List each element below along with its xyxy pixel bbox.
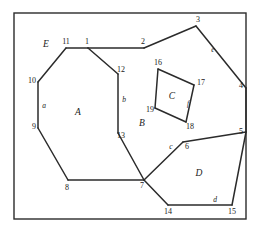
vertex-label-15: 15 (228, 208, 236, 216)
vertex-label-11: 11 (62, 38, 70, 46)
vertex-label-2: 2 (141, 38, 145, 46)
edge-label-d: d (213, 196, 217, 204)
vertex-label-10: 10 (28, 77, 36, 85)
edge-5-6 (183, 132, 246, 142)
edge-2-3 (144, 26, 196, 48)
vertex-label-3: 3 (196, 16, 200, 24)
edge-label-b: b (122, 96, 126, 104)
face-label-C: C (169, 92, 175, 102)
edge-8-9 (38, 128, 68, 180)
planar-subdivision-figure: 12345678910111213141516171819 abcdef ABC… (0, 0, 264, 233)
face-label-A: A (75, 108, 81, 118)
vertex-label-19: 19 (146, 106, 154, 114)
edge-16-17 (158, 69, 194, 85)
vertex-label-5: 5 (239, 128, 243, 136)
edge-label-f: f (187, 100, 189, 108)
edge-13-7 (118, 133, 144, 180)
face-label-D: D (196, 169, 203, 179)
vertex-label-1: 1 (85, 38, 89, 46)
edge-18-19 (155, 108, 186, 122)
vertex-label-13: 13 (117, 132, 125, 140)
vertex-label-9: 9 (32, 123, 36, 131)
edge-collection (38, 26, 246, 205)
figure-canvas (0, 0, 264, 233)
edge-label-a: a (42, 102, 46, 110)
vertex-label-7: 7 (140, 182, 144, 190)
edge-7-14 (144, 180, 168, 205)
vertex-label-18: 18 (186, 123, 194, 131)
edge-label-c: c (169, 143, 172, 151)
vertex-label-8: 8 (65, 184, 69, 192)
vertex-label-4: 4 (239, 82, 243, 90)
face-label-E: E (43, 40, 49, 50)
vertex-label-14: 14 (164, 208, 172, 216)
vertex-label-6: 6 (185, 143, 189, 151)
edge-1-12 (88, 48, 118, 74)
edge-6-7 (144, 142, 183, 180)
vertex-label-16: 16 (154, 59, 162, 67)
edge-label-e: e (211, 46, 214, 54)
vertex-label-12: 12 (117, 66, 125, 74)
edge-15-5 (232, 132, 246, 205)
vertex-label-17: 17 (197, 79, 205, 87)
edge-10-11 (38, 48, 66, 82)
face-label-B: B (139, 119, 145, 129)
edge-19-16 (155, 69, 158, 108)
